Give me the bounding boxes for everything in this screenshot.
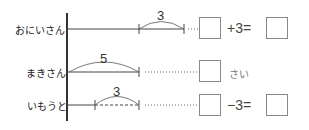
answer-box-sister[interactable] (199, 94, 221, 116)
row-label-sister: いもうと (27, 98, 67, 113)
equation-sister: −3= (227, 97, 251, 113)
row-label-brother: おにいさん (15, 22, 65, 37)
equation-brother: +3= (227, 20, 251, 36)
arc-value-sister: 3 (113, 84, 120, 99)
answer-box-brother[interactable] (199, 17, 221, 39)
arc-value-brother: 3 (157, 8, 164, 23)
result-box-sister[interactable] (266, 94, 288, 116)
unit-age: さい (229, 66, 249, 81)
arc-value-maki: 5 (100, 51, 107, 66)
result-box-brother[interactable] (266, 17, 288, 39)
answer-box-maki[interactable] (199, 60, 221, 82)
row-label-maki: まきさん (26, 65, 66, 80)
